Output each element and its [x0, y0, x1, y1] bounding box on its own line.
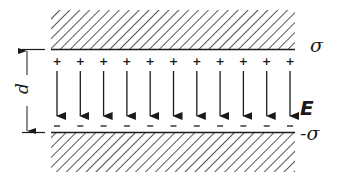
positive-charge-sign: + [285, 55, 294, 68]
positive-charge-sign: + [192, 55, 201, 68]
bottom-plate [51, 133, 295, 173]
positive-charge-sign: + [169, 55, 178, 68]
positive-charge-sign: + [262, 55, 271, 68]
field-label: E [300, 98, 314, 118]
separation-label: d [14, 83, 31, 94]
positive-charge-sign: + [215, 55, 224, 68]
top-charge-label: σ [310, 36, 323, 55]
positive-charge-sign: + [239, 55, 248, 68]
positive-charge-sign: + [52, 55, 61, 68]
positive-charge-sign: + [146, 55, 155, 68]
top-plate [51, 10, 295, 50]
positive-charge-sign: + [122, 55, 131, 68]
bottom-charge-label: -σ [300, 124, 319, 143]
positive-charge-sign: + [76, 55, 85, 68]
positive-charge-sign: + [99, 55, 108, 68]
capacitor-diagram: +++++++++++ [0, 0, 344, 187]
field-lines: +++++++++++ [52, 55, 294, 126]
